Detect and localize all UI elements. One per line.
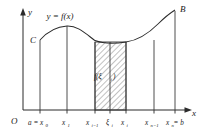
tick-label-x0-sub: 0: [46, 123, 49, 128]
f-xi-close: ): [112, 72, 116, 81]
x-tick-labels-group: a = x 0 x 1 x i−1 ξ i x i x n−1: [28, 118, 184, 128]
tick-label-xn: x n = b: [165, 119, 184, 128]
tick-label-x0-main: a = x: [28, 119, 44, 127]
curve-equation-label: y = f(x): [45, 11, 73, 21]
tick-label-xim1-main: x: [85, 119, 90, 127]
tick-label-xnm1-sub: n−1: [151, 123, 159, 128]
riemann-sum-figure: y x O y = f(x): [0, 0, 204, 140]
tick-label-xi-minus-1: x i−1: [85, 119, 98, 128]
x-axis-arrowhead: [185, 107, 193, 113]
tick-label-xim1-sub: i−1: [92, 123, 99, 128]
tick-label-xn-tail: = b: [174, 119, 185, 127]
y-axis-label: y: [27, 7, 32, 17]
tick-label-x1-main: x: [61, 119, 66, 127]
tick-label-x1: x 1: [61, 119, 70, 128]
x-axis-label: x: [191, 108, 196, 118]
tick-label-xistar-sub: i: [112, 123, 114, 128]
figure-canvas: y x O y = f(x): [0, 0, 204, 140]
point-c-label: C: [30, 35, 37, 45]
tick-label-xn-main: x: [165, 119, 170, 127]
x-axis-ticks: [40, 110, 175, 114]
tick-label-xistar-main: ξ: [106, 118, 110, 127]
point-b-label: B: [180, 4, 186, 14]
tick-label-xi-star: ξ i: [106, 118, 114, 128]
origin-label: O: [11, 116, 18, 126]
tick-label-xn-minus-1: x n−1: [144, 119, 159, 128]
tick-label-xnm1-main: x: [144, 119, 149, 127]
tick-label-xi-sub: i: [127, 123, 129, 128]
y-axis-arrowhead: [20, 8, 26, 16]
tick-label-xi: x i: [120, 119, 129, 128]
f-xi-main: f(ξ: [94, 72, 103, 81]
tick-label-x1-sub: 1: [68, 123, 70, 128]
tick-label-xi-main: x: [120, 119, 125, 127]
tick-label-x0: a = x 0: [28, 119, 49, 128]
